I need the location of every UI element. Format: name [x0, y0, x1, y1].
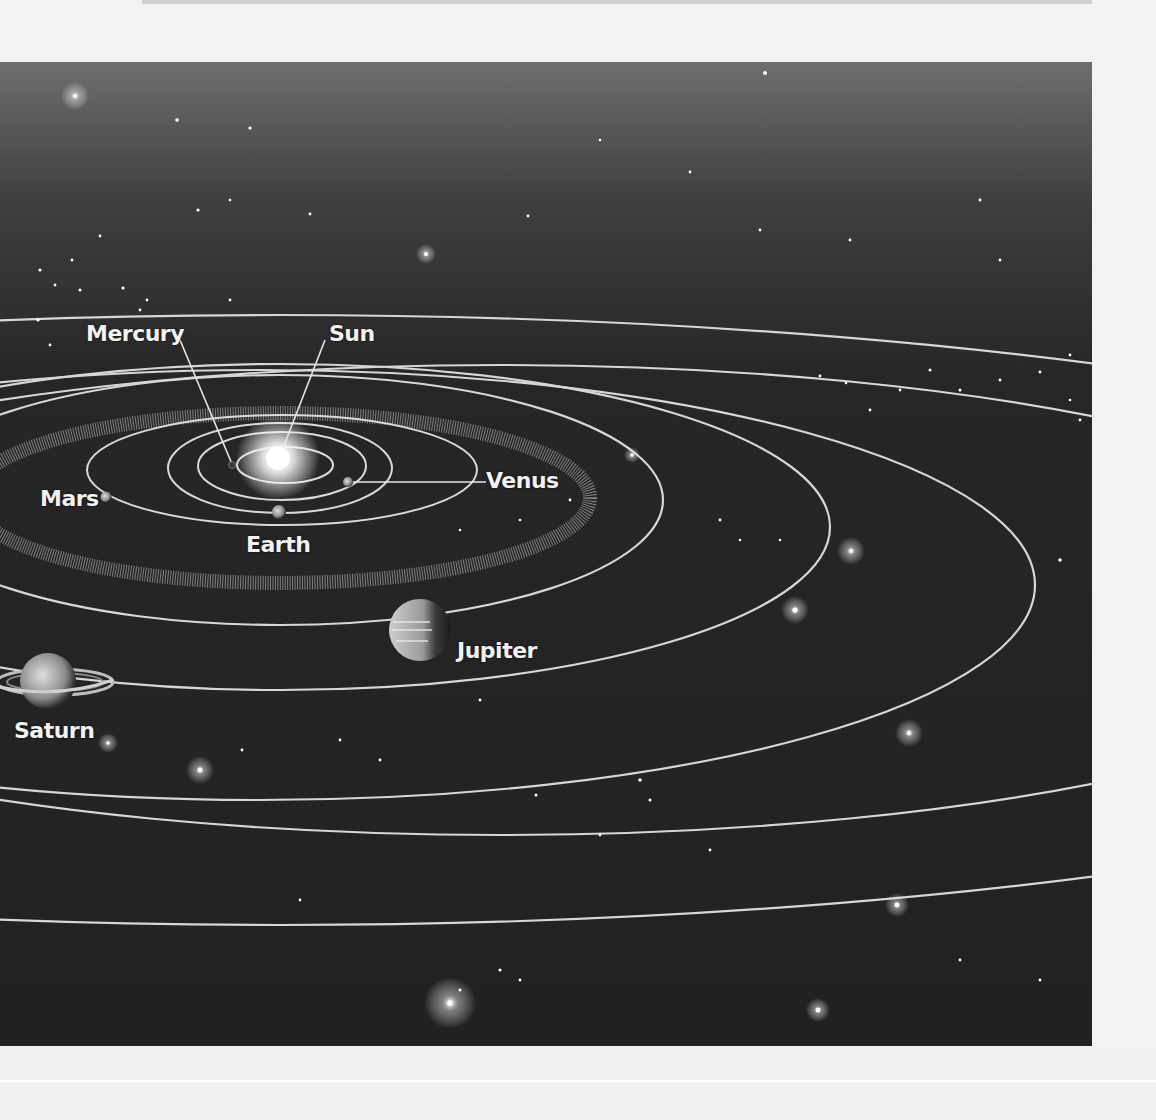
orbit-jupiter	[0, 375, 663, 625]
stars	[36, 71, 1081, 1029]
mercury-leader	[180, 340, 232, 464]
bottom-divider	[0, 1080, 1156, 1082]
earth-planet	[272, 505, 286, 519]
label-venus: Venus	[486, 468, 559, 493]
mercury-planet	[229, 462, 236, 469]
orbit-extra	[0, 365, 1092, 835]
solar-system-illustration: Mercury Sun Venus Mars Earth Jupiter Sat…	[0, 62, 1092, 1046]
label-saturn: Saturn	[14, 718, 94, 743]
top-divider	[142, 0, 1092, 4]
label-earth: Earth	[246, 532, 310, 557]
venus-planet	[343, 477, 353, 487]
outer-orbits	[0, 315, 1092, 925]
sun	[266, 446, 290, 470]
label-sun: Sun	[329, 321, 375, 346]
mars-planet	[101, 492, 112, 503]
label-jupiter: Jupiter	[457, 638, 537, 663]
orbits-diagram	[0, 62, 1092, 1046]
orbit-uranus	[0, 370, 1035, 800]
label-mercury: Mercury	[86, 321, 184, 346]
bottom-band	[0, 1046, 1156, 1120]
label-mars: Mars	[40, 486, 99, 511]
